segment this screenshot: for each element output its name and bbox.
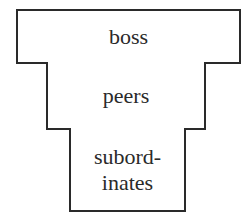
peers-box: peers: [46, 62, 206, 130]
subordinates-box: subord- inates: [69, 128, 186, 212]
subordinates-label: subord- inates: [94, 144, 161, 196]
boss-box: boss: [16, 9, 241, 64]
peers-label: peers: [103, 83, 149, 109]
boss-label: boss: [109, 24, 148, 50]
